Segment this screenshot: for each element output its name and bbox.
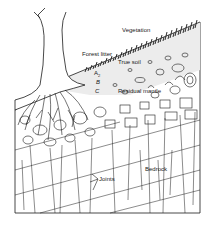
label-residual-mantle: Residual mantle [118, 88, 161, 94]
label-forest-litter: Forest litter [82, 51, 112, 57]
label-joints: Joints [99, 176, 115, 182]
label-true-soil: True soil [118, 59, 141, 65]
label-horizon-c: C [95, 88, 99, 94]
label-vegetation: Vegetation [122, 27, 150, 33]
label-bedrock: Bedrock [145, 166, 167, 172]
label-horizon-a: A2 [94, 70, 100, 78]
label-horizon-b: B [96, 79, 100, 85]
bedrock-joints [15, 112, 200, 213]
soil-profile-diagram [0, 0, 210, 226]
